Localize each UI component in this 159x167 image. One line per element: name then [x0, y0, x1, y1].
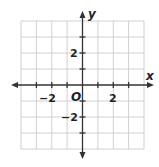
coordinate-plane: y x O −2 2 2 −2 — [0, 0, 159, 167]
y-axis-up-arrow-icon — [80, 11, 86, 18]
y-tick-label-2: 2 — [70, 47, 78, 60]
x-axis-left-arrow-icon — [11, 82, 18, 88]
origin-label: O — [71, 90, 81, 104]
y-axis-down-arrow-icon — [80, 152, 86, 159]
y-tick-label-neg2: −2 — [61, 111, 78, 124]
x-tick-label-neg2: −2 — [39, 92, 56, 105]
y-axis-label: y — [88, 7, 97, 21]
x-axis-label: x — [145, 69, 155, 83]
x-tick-label-2: 2 — [109, 92, 117, 105]
